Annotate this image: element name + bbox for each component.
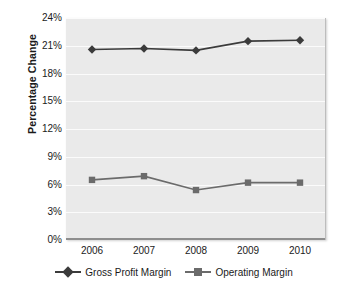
y-axis-tick: 3%	[26, 207, 62, 217]
data-point-marker	[296, 36, 304, 44]
data-point-marker	[192, 46, 200, 54]
y-axis-tick: 18%	[26, 69, 62, 79]
diamond-marker-icon	[55, 266, 81, 278]
y-axis-tick: 6%	[26, 180, 62, 190]
data-point-marker	[140, 44, 148, 52]
data-point-marker	[141, 173, 147, 179]
x-axis-tick: 2007	[114, 245, 174, 256]
legend-marker	[63, 266, 74, 277]
x-axis-tick: 2010	[270, 245, 330, 256]
y-axis-tick: 21%	[26, 41, 62, 51]
plot-area	[66, 18, 326, 240]
y-axis-tick: 0%	[26, 235, 62, 245]
y-axis-tick: 12%	[26, 124, 62, 134]
line-chart: Percentage Change 0%3%6%9%12%15%18%21%24…	[0, 0, 348, 298]
y-axis-tick: 24%	[26, 13, 62, 23]
square-marker-icon	[185, 266, 211, 278]
series-canvas	[66, 18, 325, 240]
legend-item-2[interactable]: Operating Margin	[185, 266, 292, 278]
data-point-marker	[89, 177, 95, 183]
data-point-marker	[297, 179, 303, 185]
y-axis-tick-labels: 0%3%6%9%12%15%18%21%24%	[26, 18, 62, 240]
x-axis-tick-labels: 20062007200820092010	[66, 245, 326, 261]
legend-item-1[interactable]: Gross Profit Margin	[55, 266, 171, 278]
x-axis-tick: 2006	[62, 245, 122, 256]
y-axis-tick: 9%	[26, 152, 62, 162]
data-point-marker	[193, 187, 199, 193]
chart-legend: Gross Profit MarginOperating Margin	[0, 266, 348, 278]
legend-label: Gross Profit Margin	[85, 267, 171, 278]
x-axis-tick: 2009	[218, 245, 278, 256]
y-axis-tick: 15%	[26, 96, 62, 106]
data-point-marker	[244, 37, 252, 45]
legend-marker	[194, 268, 202, 276]
data-point-marker	[245, 179, 251, 185]
plot-inner	[66, 18, 325, 240]
legend-label: Operating Margin	[215, 267, 292, 278]
data-point-marker	[88, 45, 96, 53]
x-axis-tick: 2008	[166, 245, 226, 256]
